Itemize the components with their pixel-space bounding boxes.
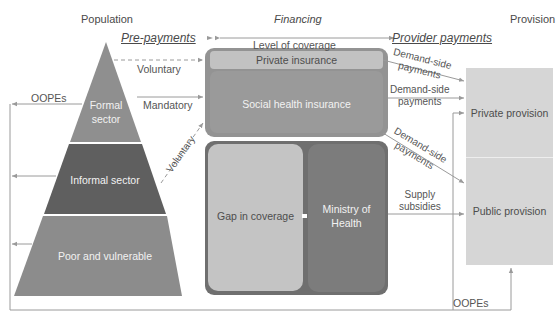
pyramid-formal-sector <box>70 42 141 142</box>
header-financing: Financing <box>274 14 322 25</box>
gap-in-coverage-label: Gap in coverage <box>208 211 303 222</box>
header-population: Population <box>81 14 133 25</box>
oopes-bottom-label: OOPEs <box>453 297 489 309</box>
supply-line2: subsidies <box>399 201 441 213</box>
header-provision: Provision <box>510 14 555 25</box>
formal-sector-line2: sector <box>84 113 128 127</box>
formal-sector-label: Formal sector <box>84 99 128 126</box>
ministry-line1: Ministry of <box>308 203 385 217</box>
informal-sector-label: Informal sector <box>64 174 146 188</box>
mandatory-label: Mandatory <box>143 99 193 111</box>
private-provision-label: Private provision <box>466 108 553 119</box>
demand-side-2-line2: payments <box>390 96 449 108</box>
supply-subsidies-label: Supply subsidies <box>399 189 441 212</box>
oopes-left-label: OOPEs <box>31 92 67 104</box>
public-provision-label: Public provision <box>466 206 553 217</box>
supply-line1: Supply <box>399 189 441 201</box>
voluntary-top-label: Voluntary <box>137 63 181 75</box>
ministry-line2: Health <box>308 217 385 231</box>
demand-side-2-line1: Demand-side <box>390 84 449 96</box>
provider-payments-label: Provider payments <box>392 32 492 44</box>
pre-payments-label: Pre-payments <box>121 32 196 44</box>
private-insurance-label: Private insurance <box>210 55 383 66</box>
level-of-coverage-label: Level of coverage <box>253 39 336 51</box>
ministry-of-health-label: Ministry of Health <box>308 203 385 230</box>
poor-vulnerable-label: Poor and vulnerable <box>50 250 160 264</box>
formal-sector-line1: Formal <box>84 99 128 113</box>
demand-side-label-2: Demand-side payments <box>390 84 449 107</box>
social-health-insurance-label: Social health insurance <box>210 98 383 112</box>
